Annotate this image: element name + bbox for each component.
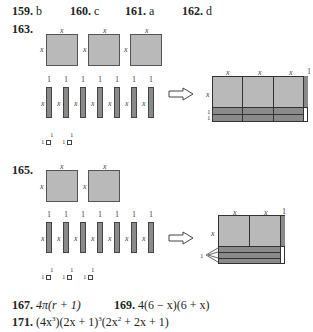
- bar-top-label: 1: [81, 210, 85, 219]
- unit-square: [46, 275, 51, 280]
- x-bar: [148, 87, 154, 118]
- unit-square: [67, 140, 72, 145]
- unit-square: [67, 275, 72, 280]
- answer-171: 171. (4x3)(2x + 1)3(2x2 + 2x + 1): [12, 315, 169, 330]
- bar-side-label: x: [91, 234, 95, 243]
- bar-side-label: x: [74, 99, 78, 108]
- answer-value: c: [94, 4, 99, 18]
- unit-top-label: 1: [91, 266, 95, 274]
- x-bar-column: [303, 76, 308, 107]
- bar-top-label: 1: [64, 210, 68, 219]
- x-bar: [114, 87, 120, 118]
- square: [46, 34, 78, 66]
- side-label: 1: [207, 114, 211, 122]
- bar-side-label: x: [57, 234, 61, 243]
- side-label: 1: [200, 252, 204, 260]
- bar-side-label: x: [125, 99, 129, 108]
- unit-side-label: 1: [41, 273, 45, 281]
- x-bar: [80, 222, 86, 253]
- side-label: x: [83, 182, 87, 191]
- bar-top-label: 1: [98, 210, 102, 219]
- unit-top-label: 1: [50, 131, 54, 139]
- expr-part: )(2x + 1): [56, 315, 99, 329]
- unit-side-label: 1: [41, 138, 45, 146]
- side-label: x: [40, 182, 44, 191]
- x-bar: [63, 222, 69, 253]
- x-bar-column: [280, 216, 285, 246]
- bar-top-label: 1: [115, 75, 119, 84]
- x-bar: [46, 87, 52, 118]
- unit-top-label: 1: [70, 266, 74, 274]
- unit-side-label: 1: [83, 273, 87, 281]
- x-bar: [97, 87, 103, 118]
- unit-cells: [303, 108, 307, 121]
- answer-162: 162. d: [182, 4, 212, 19]
- answer-value: 4(6 − x)(6 + x): [138, 298, 210, 312]
- unit-top-label: 1: [70, 131, 74, 139]
- bar-top-label: 1: [47, 75, 51, 84]
- divider: [273, 107, 274, 122]
- unit-side-label: 1: [62, 138, 66, 146]
- bar-side-label: x: [91, 99, 95, 108]
- bar-side-label: x: [41, 99, 45, 108]
- x-bar: [63, 87, 69, 118]
- side-label: x: [40, 45, 44, 54]
- bar-side-label: x: [142, 99, 146, 108]
- bar-top-label: 1: [149, 210, 153, 219]
- bar-top-label: 1: [115, 210, 119, 219]
- answer-number: 162.: [182, 4, 203, 18]
- bar-top-label: 1: [64, 75, 68, 84]
- unit-top-label: 1: [50, 266, 54, 274]
- answer-161: 161. a: [125, 4, 154, 19]
- x-bar: [148, 222, 154, 253]
- answer-number: 159.: [12, 4, 33, 18]
- square: [88, 170, 120, 202]
- bar-side-label: x: [125, 234, 129, 243]
- unit-square: [46, 140, 51, 145]
- x-bar-row: [213, 115, 303, 121]
- answer-number: 171.: [12, 315, 33, 329]
- side-label: x: [211, 229, 215, 238]
- answer-number: 161.: [125, 4, 146, 18]
- side-label: x: [206, 90, 210, 99]
- bar-side-label: x: [108, 234, 112, 243]
- answer-159: 159. b: [12, 4, 42, 19]
- x-bar: [114, 222, 120, 253]
- answer-number: 169.: [114, 298, 135, 312]
- answer-value: a: [149, 4, 154, 18]
- bar-side-label: x: [41, 234, 45, 243]
- problem-163-label: 163.: [12, 22, 33, 37]
- x-bar-row: [219, 259, 280, 263]
- bar-top-label: 1: [149, 75, 153, 84]
- answer-value: 4π(r + 1): [36, 298, 81, 312]
- unit-square: [88, 275, 93, 280]
- bar-top-label: 1: [47, 210, 51, 219]
- square: [88, 34, 120, 66]
- expr-part: (2x: [102, 315, 118, 329]
- bar-side-label: x: [57, 99, 61, 108]
- unit-cells: [280, 247, 284, 263]
- answer-value: b: [36, 4, 42, 18]
- expr-part: + 2x + 1): [121, 315, 169, 329]
- expr-part: (4x: [36, 315, 52, 329]
- bar-side-label: x: [108, 99, 112, 108]
- x-bar: [80, 87, 86, 118]
- problem-165-label: 165.: [12, 163, 33, 178]
- answer-value: (4x3)(2x + 1)3(2x2 + 2x + 1): [36, 315, 169, 329]
- square: [130, 34, 162, 66]
- x-bar: [131, 222, 137, 253]
- side-label: x: [83, 45, 87, 54]
- bar-top-label: 1: [132, 75, 136, 84]
- answer-number: 160.: [70, 4, 91, 18]
- x-bar: [97, 222, 103, 253]
- answer-value: d: [206, 4, 212, 18]
- answer-number: 167.: [12, 298, 33, 312]
- answer-167: 167. 4π(r + 1): [12, 298, 81, 313]
- right-arrow-icon: [168, 87, 194, 101]
- divider: [242, 107, 243, 122]
- x-bar: [131, 87, 137, 118]
- answer-160: 160. c: [70, 4, 99, 19]
- brace-icon: [204, 247, 219, 263]
- square: [46, 170, 78, 202]
- bar-top-label: 1: [98, 75, 102, 84]
